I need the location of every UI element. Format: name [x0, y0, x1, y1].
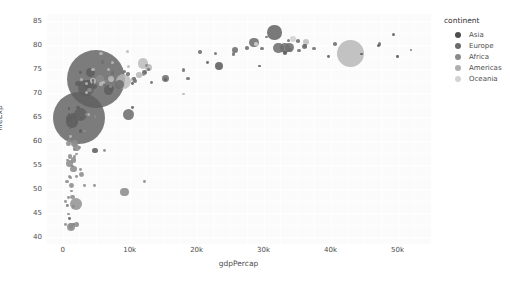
data-point[interactable] [91, 68, 94, 71]
y-gridline [46, 129, 431, 130]
y-gridline [46, 177, 431, 178]
data-point[interactable] [396, 55, 398, 57]
data-point[interactable] [214, 52, 218, 56]
data-point[interactable] [111, 71, 115, 75]
legend-item-americas[interactable]: Americas [444, 63, 508, 73]
data-point[interactable] [186, 77, 190, 81]
data-point[interactable] [78, 146, 81, 149]
data-point[interactable] [79, 172, 84, 177]
data-point[interactable] [150, 81, 153, 84]
data-point[interactable] [83, 184, 86, 187]
data-point[interactable] [70, 190, 73, 193]
data-point[interactable] [64, 223, 67, 226]
data-point[interactable] [99, 82, 102, 85]
data-point[interactable] [101, 60, 105, 64]
y-tick-label: 45 [33, 209, 42, 217]
data-point[interactable] [70, 198, 82, 210]
data-point[interactable] [85, 91, 88, 94]
data-point[interactable] [283, 51, 287, 55]
data-point[interactable] [68, 217, 71, 220]
y-tick-label: 60 [33, 137, 42, 145]
data-point[interactable] [70, 195, 75, 200]
legend-item-asia[interactable]: Asia [444, 30, 508, 40]
data-point[interactable] [288, 48, 292, 52]
data-point[interactable] [69, 183, 74, 188]
data-point[interactable] [65, 180, 68, 183]
data-point[interactable] [88, 82, 91, 85]
legend-item-africa[interactable]: Africa [444, 52, 508, 62]
data-point[interactable] [75, 81, 80, 86]
data-point[interactable] [74, 222, 78, 226]
data-point[interactable] [75, 175, 78, 178]
data-point[interactable] [131, 82, 134, 85]
legend-swatch-icon [455, 54, 461, 60]
data-point[interactable] [94, 115, 97, 118]
data-point[interactable] [80, 78, 83, 81]
data-point[interactable] [147, 68, 150, 71]
data-point[interactable] [71, 165, 74, 168]
data-point[interactable] [64, 200, 67, 203]
data-point[interactable] [267, 25, 281, 39]
data-point[interactable] [115, 80, 124, 89]
data-point[interactable] [182, 93, 185, 96]
data-point[interactable] [182, 68, 186, 72]
data-point[interactable] [79, 168, 82, 171]
data-point[interactable] [123, 109, 135, 121]
data-point[interactable] [72, 141, 77, 146]
data-point[interactable] [410, 49, 412, 51]
data-point[interactable] [99, 52, 102, 55]
data-point[interactable] [120, 188, 129, 197]
data-point[interactable] [245, 46, 249, 50]
legend-item-europe[interactable]: Europe [444, 41, 508, 51]
y-tick-label: 70 [33, 89, 42, 97]
y-axis-title: lifeExp [0, 88, 4, 148]
data-point[interactable] [296, 39, 300, 43]
legend-item-label: Africa [469, 53, 489, 61]
data-point[interactable] [72, 205, 75, 208]
data-point[interactable] [73, 155, 76, 158]
data-point[interactable] [126, 50, 129, 53]
data-point[interactable] [75, 153, 78, 156]
data-point[interactable] [206, 61, 209, 64]
x-axis: 010k20k30k40k50k [46, 246, 431, 260]
data-point[interactable] [258, 65, 261, 68]
data-point[interactable] [79, 71, 82, 74]
legend-swatch-icon [455, 43, 461, 49]
data-point[interactable] [333, 42, 337, 46]
data-point[interactable] [67, 196, 70, 199]
data-point[interactable] [111, 61, 114, 64]
data-point[interactable] [287, 39, 291, 43]
data-point[interactable] [73, 148, 76, 151]
data-point[interactable] [126, 72, 130, 76]
data-point[interactable] [85, 113, 88, 116]
plot-panel [46, 14, 431, 244]
data-point[interactable] [80, 117, 83, 120]
data-point[interactable] [232, 52, 236, 56]
data-point[interactable] [79, 129, 82, 132]
y-gridline [46, 237, 431, 238]
data-point[interactable] [92, 148, 97, 153]
data-point[interactable] [143, 180, 146, 183]
data-point[interactable] [72, 223, 75, 226]
y-tick-label: 75 [33, 65, 42, 73]
y-gridline [46, 141, 431, 142]
data-point[interactable] [265, 36, 268, 39]
data-point[interactable] [198, 50, 202, 54]
data-point[interactable] [377, 44, 380, 47]
legend-item-label: Europe [469, 42, 494, 50]
data-point[interactable] [66, 141, 70, 145]
data-point[interactable] [67, 213, 70, 216]
data-point[interactable] [142, 73, 145, 76]
data-point[interactable] [254, 42, 258, 46]
data-point[interactable] [103, 149, 106, 152]
data-point[interactable] [69, 176, 72, 179]
data-point[interactable] [303, 44, 307, 48]
data-point[interactable] [109, 85, 112, 88]
data-point[interactable] [312, 47, 316, 51]
legend-swatch-icon [455, 65, 461, 71]
data-point[interactable] [76, 106, 79, 109]
legend-item-oceania[interactable]: Oceania [444, 74, 508, 84]
data-point[interactable] [392, 33, 395, 36]
data-point[interactable] [297, 49, 301, 53]
data-point[interactable] [131, 106, 134, 109]
